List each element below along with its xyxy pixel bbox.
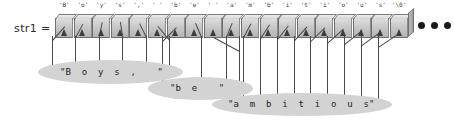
cell-char-label-0: 'B'	[54, 1, 74, 8]
arrowhead-cell-17	[377, 29, 383, 36]
arrowhead-cell-12	[284, 29, 290, 36]
arrowhead-cell-3	[117, 29, 123, 36]
array-end-cap	[408, 8, 414, 37]
cell-char-label-12: 'i'	[278, 1, 298, 8]
cell-char-label-9: 'a'	[222, 1, 242, 8]
connector-line-cell-16	[344, 36, 345, 103]
arrowhead-cell-18	[396, 29, 402, 36]
boys-group-text: "B o y s , "	[60, 67, 163, 77]
cell-char-label-2: 'y'	[92, 1, 112, 8]
arrowhead-cell-0	[61, 29, 67, 36]
cell-char-label-16: 'u'	[352, 1, 372, 8]
ambitious-group-text: "a m b i t i o u s"	[228, 99, 374, 109]
cell-char-label-5: ' '	[147, 1, 167, 8]
cell-char-label-7: 'e'	[185, 1, 205, 8]
arrowhead-cell-8	[210, 29, 216, 36]
cell-char-label-11: 'b'	[259, 1, 279, 8]
arrowhead-cell-1	[79, 29, 85, 36]
arrowhead-cell-5	[154, 29, 160, 36]
cell-char-label-15: 'o'	[333, 1, 353, 8]
cell-char-label-3: 's'	[110, 1, 130, 8]
arrowhead-cell-9	[228, 29, 234, 36]
arrowhead-cell-4	[135, 29, 141, 36]
arrowhead-cell-13	[303, 29, 309, 36]
cell-char-label-14: 'i'	[315, 1, 335, 8]
cell-char-label-1: 'o'	[73, 1, 93, 8]
cell-char-label-17: 's'	[371, 1, 391, 8]
cell-char-label-10: 'm'	[240, 1, 260, 8]
cell-char-label-8: ' '	[203, 1, 223, 8]
arrowhead-cell-6	[172, 29, 178, 36]
arrowhead-cell-15	[340, 29, 346, 36]
cell-char-label-4: ','	[129, 1, 149, 8]
string-memory-diagram: str1 = 'B''o''y''s'','' ''b''e'' ''a''m'…	[0, 0, 454, 125]
variable-label: str1 =	[14, 22, 51, 35]
ellipsis-icon	[418, 22, 451, 29]
arrowhead-cell-14	[321, 29, 327, 36]
cell-char-label-13: 't'	[296, 1, 316, 8]
arrowhead-cell-7	[191, 29, 197, 36]
arrowhead-cell-11	[265, 29, 271, 36]
arrowhead-cell-10	[247, 29, 253, 36]
arrowhead-cell-2	[98, 29, 104, 36]
connector-line-cell-8	[239, 36, 240, 87]
cell-char-label-6: 'b'	[166, 1, 186, 8]
arrowhead-cell-16	[358, 29, 364, 36]
be-group-text: "b e "	[170, 83, 224, 93]
cell-char-label-18: '\0'	[389, 1, 409, 8]
